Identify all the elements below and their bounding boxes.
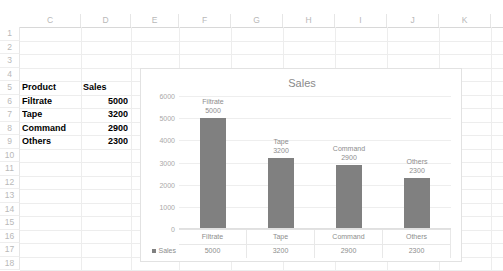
row-header-7[interactable]: 7: [0, 108, 20, 122]
bar-label-value: 5000: [181, 106, 245, 115]
y-axis-tick-5000: 5000: [159, 115, 175, 122]
row-header-1[interactable]: 1: [0, 27, 20, 41]
row-header-11[interactable]: 11: [0, 162, 20, 176]
column-header-h[interactable]: H: [283, 14, 335, 27]
bar-tape[interactable]: [268, 158, 294, 229]
cell-C8[interactable]: Command: [22, 122, 78, 136]
cell-C6[interactable]: Filtrate: [22, 95, 78, 109]
row-header-5[interactable]: 5: [0, 81, 20, 95]
bar-label-category: Tape: [249, 137, 313, 146]
bar-label-others: Others2300: [385, 157, 449, 175]
y-axis-tick-0: 0: [171, 226, 175, 233]
bar-label-category: Others: [385, 157, 449, 166]
data-table-value-filtrate: 5000: [179, 244, 247, 258]
row-header-8[interactable]: 8: [0, 122, 20, 136]
bar-label-tape: Tape3200: [249, 137, 313, 155]
spreadsheet-canvas[interactable]: CDEFGHIJK 123456789101112131415161718 Pr…: [0, 0, 503, 271]
bar-command[interactable]: [336, 165, 362, 229]
bar-label-command: Command2900: [317, 144, 381, 162]
chart-data-table: FiltrateTapeCommandOthers Sales 50003200…: [179, 229, 451, 257]
bar-label-category: Command: [317, 144, 381, 153]
legend-swatch-icon: [152, 249, 156, 253]
cell-D7[interactable]: 3200: [83, 108, 128, 122]
data-table-value-others: 2300: [383, 244, 451, 258]
embedded-chart[interactable]: Sales 6000500040003000200010000 Filtrate…: [140, 68, 462, 262]
row-header-15[interactable]: 15: [0, 216, 20, 230]
row-header-18[interactable]: 18: [0, 257, 20, 271]
bar-label-value: 2300: [385, 166, 449, 175]
row-header-12[interactable]: 12: [0, 176, 20, 190]
data-table-category-tape: Tape: [247, 230, 315, 244]
grid-col-line: [81, 27, 82, 271]
row-header-16[interactable]: 16: [0, 230, 20, 244]
bar-label-category: Filtrate: [181, 97, 245, 106]
grid-col-line: [491, 27, 492, 271]
column-header-i[interactable]: I: [335, 14, 387, 27]
data-table-category-others: Others: [383, 230, 451, 244]
column-header-k[interactable]: K: [439, 14, 491, 27]
legend-series-label: Sales: [158, 247, 176, 254]
y-axis-tick-3000: 3000: [159, 159, 175, 166]
data-table-category-filtrate: Filtrate: [179, 230, 247, 244]
bar-filtrate[interactable]: [200, 118, 226, 229]
cell-C7[interactable]: Tape: [22, 108, 78, 122]
cell-D8[interactable]: 2900: [83, 122, 128, 136]
y-axis-tick-4000: 4000: [159, 137, 175, 144]
row-header-6[interactable]: 6: [0, 95, 20, 109]
chart-title: Sales: [141, 77, 463, 89]
column-header-j[interactable]: J: [387, 14, 439, 27]
cell-D9[interactable]: 2300: [83, 135, 128, 149]
row-header-2[interactable]: 2: [0, 41, 20, 55]
bar-others[interactable]: [404, 178, 430, 229]
row-header-17[interactable]: 17: [0, 243, 20, 257]
column-header-g[interactable]: G: [231, 14, 283, 27]
cell-D6[interactable]: 5000: [83, 95, 128, 109]
row-header-13[interactable]: 13: [0, 189, 20, 203]
data-table-category-row: FiltrateTapeCommandOthers: [179, 230, 451, 244]
cell-C5[interactable]: Product: [22, 81, 78, 95]
bar-label-filtrate: Filtrate5000: [181, 97, 245, 115]
y-axis-tick-1000: 1000: [159, 203, 175, 210]
column-header-f[interactable]: F: [179, 14, 231, 27]
grid-col-line: [131, 27, 132, 271]
cell-C9[interactable]: Others: [22, 135, 78, 149]
bar-label-value: 3200: [249, 146, 313, 155]
y-axis-tick-6000: 6000: [159, 93, 175, 100]
grid-row-line: [20, 54, 503, 55]
cell-D5[interactable]: Sales: [83, 81, 128, 95]
legend-key: Sales: [141, 244, 179, 258]
chart-plot-area: 6000500040003000200010000 Filtrate5000Ta…: [179, 96, 451, 229]
row-header-9[interactable]: 9: [0, 135, 20, 149]
row-header-10[interactable]: 10: [0, 149, 20, 163]
grid-row-line: [20, 41, 503, 42]
bar-label-value: 2900: [317, 153, 381, 162]
data-table-value-row: Sales 5000320029002300: [179, 244, 451, 258]
data-table-value-tape: 3200: [247, 244, 315, 258]
column-header-e[interactable]: E: [131, 14, 179, 27]
y-axis-tick-2000: 2000: [159, 181, 175, 188]
row-header-3[interactable]: 3: [0, 54, 20, 68]
data-table-value-command: 2900: [315, 244, 383, 258]
column-header-c[interactable]: C: [20, 14, 81, 27]
data-table-category-command: Command: [315, 230, 383, 244]
row-header-14[interactable]: 14: [0, 203, 20, 217]
column-header-d[interactable]: D: [81, 14, 131, 27]
row-header-4[interactable]: 4: [0, 68, 20, 82]
